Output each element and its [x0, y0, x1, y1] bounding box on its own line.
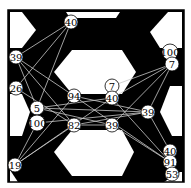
graph-node: 39: [105, 118, 119, 132]
node-label: 100: [160, 47, 179, 58]
node-label: 82: [68, 120, 81, 131]
graph-node: 19: [8, 158, 22, 172]
node-label: 91: [164, 157, 177, 168]
graph-node: 40: [105, 91, 119, 105]
node-label: 39: [142, 107, 155, 118]
node-label: 94: [68, 91, 81, 102]
node-label: 39: [10, 52, 23, 63]
node-label: 26: [10, 83, 23, 94]
node-label: 39: [106, 120, 119, 131]
node-label: 40: [65, 17, 78, 28]
node-label: 7: [109, 81, 115, 92]
node-label: 53: [166, 169, 179, 180]
node-label: 7: [169, 59, 175, 70]
node-label: 5: [34, 103, 40, 114]
node-label: 19: [9, 160, 22, 171]
graph-diagram: 403926510019948274039391007409153: [0, 0, 191, 188]
graph-node: 39: [141, 105, 155, 119]
occupancy-map: [8, 10, 184, 182]
graph-node: 26: [9, 81, 23, 95]
graph-node: 5: [30, 101, 44, 115]
node-label: 40: [106, 93, 119, 104]
graph-node: 53: [165, 167, 179, 181]
graph-node: 39: [9, 50, 23, 64]
graph-node: 82: [67, 118, 81, 132]
node-label: 100: [27, 118, 46, 129]
graph-node: 7: [165, 57, 179, 71]
graph-node: 40: [64, 15, 78, 29]
graph-node: 94: [67, 89, 81, 103]
